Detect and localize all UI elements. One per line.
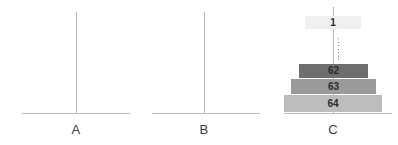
peg-b-group: B xyxy=(152,0,280,145)
peg-a-rod xyxy=(76,12,77,113)
peg-b-rod xyxy=(204,12,205,113)
hanoi-figure: A B 1 62 63 64 C xyxy=(0,0,398,145)
peg-c-label: C xyxy=(313,122,353,138)
peg-a-label: A xyxy=(56,122,96,138)
peg-a-group: A xyxy=(0,0,152,145)
disk-1[interactable]: 1 xyxy=(305,16,361,29)
vertical-ellipsis-icon xyxy=(337,38,340,60)
peg-c-group: 1 62 63 64 C xyxy=(280,0,398,145)
peg-b-label: B xyxy=(184,122,224,138)
disk-63[interactable]: 63 xyxy=(291,79,376,94)
disk-1-label: 1 xyxy=(330,18,336,28)
disk-62-label: 62 xyxy=(328,66,339,76)
disk-64[interactable]: 64 xyxy=(284,95,382,112)
peg-b-base xyxy=(152,113,260,114)
peg-a-base xyxy=(22,113,130,114)
disk-62[interactable]: 62 xyxy=(299,64,368,78)
disk-63-label: 63 xyxy=(328,82,339,92)
peg-c-base xyxy=(284,113,392,114)
disk-64-label: 64 xyxy=(327,99,338,109)
